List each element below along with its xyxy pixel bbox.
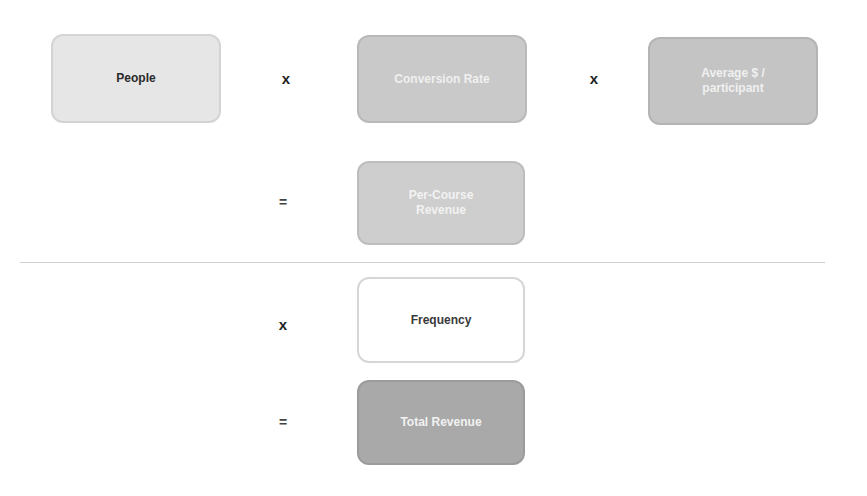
equals-operator-2: = [273,414,293,430]
per-course-revenue-box: Per-Course Revenue [357,161,525,245]
multiply-operator-1: x [276,70,296,87]
average-per-participant-label: Average $ / participant [690,66,776,96]
multiply-operator-2: x [584,70,604,87]
per-course-revenue-label: Per-Course Revenue [404,188,478,218]
conversion-rate-box: Conversion Rate [357,35,527,123]
average-per-participant-box: Average $ / participant [648,37,818,125]
total-revenue-label: Total Revenue [400,415,481,430]
total-revenue-box: Total Revenue [357,380,525,465]
multiply-operator-3: x [273,316,293,333]
frequency-box: Frequency [357,277,525,363]
people-label: People [116,71,155,86]
equals-operator-1: = [273,194,293,210]
people-box: People [51,34,221,123]
frequency-label: Frequency [411,313,472,328]
conversion-rate-label: Conversion Rate [394,72,489,87]
section-divider [20,262,825,263]
